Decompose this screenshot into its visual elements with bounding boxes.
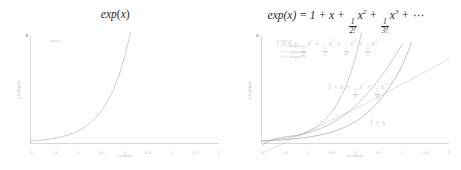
chart-panel-left: exp(x) exp(x) 0 2 4 6 [0, 0, 231, 170]
yaxis-label: y (output) [246, 80, 251, 99]
annotation-degree3: 1 + x + 12!x2 + 13!x3 [328, 83, 387, 100]
panel-title-right: exp(x) = 1 + x + 12!x2 + 13!x3 + ⋯ [231, 8, 461, 34]
chart-panel-right: exp(x) = 1 + x + 12!x2 + 13!x3 + ⋯ 1 + x… [231, 0, 461, 170]
ytick: 8 [26, 34, 28, 38]
legend-label: exp(x) [281, 39, 292, 43]
legend-left: exp(x) [35, 39, 61, 43]
panel-title-left: exp(x) [0, 8, 231, 20]
legend-item: exp(x) [266, 39, 307, 43]
xaxis-label: x (input) [262, 153, 450, 158]
yaxis-label: y (output) [16, 80, 21, 99]
legend-item: x^5 (degree 5) [266, 55, 307, 59]
legend-label: x^1 (degree 1) [281, 44, 307, 48]
plot-curves-left [31, 36, 219, 143]
figure-container: exp(x) exp(x) 0 2 4 6 [0, 0, 461, 170]
xaxis-label: x (input) [31, 153, 219, 158]
legend-label: x^5 (degree 5) [281, 55, 307, 59]
plot-area-right: 1 + x + 12!x2 + 13!x3 + 14!x4 + 15!x5 1 … [261, 36, 450, 144]
ytick: 8 [256, 34, 258, 38]
legend-right: exp(x) x^1 (degree 1) x^3 (degree 3) [266, 39, 307, 59]
plot-area-left: exp(x) 0 2 4 6 8 -2 -1.5 -1 -0.5 0 0.5 1… [30, 36, 219, 144]
curve-exp [31, 32, 131, 141]
annotation-degree1: 1 + x [370, 119, 386, 127]
legend-item: x^3 (degree 3) [266, 50, 307, 54]
legend-item: exp(x) [35, 39, 61, 43]
legend-label: exp(x) [50, 39, 61, 43]
legend-label: x^3 (degree 3) [281, 50, 307, 54]
legend-item: x^1 (degree 1) [266, 44, 307, 48]
